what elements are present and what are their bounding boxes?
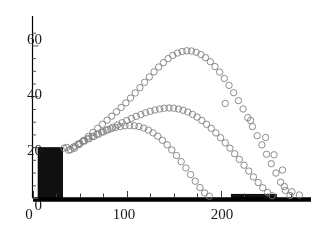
chart-plot-area <box>0 0 316 234</box>
y-tick-label-20: 20 <box>12 142 42 159</box>
y-tick-label-40: 40 <box>12 86 42 103</box>
y-tick-label-60: 60 <box>12 31 42 48</box>
x-tick-label-0: 0 <box>25 206 33 223</box>
x-tick-label-100: 100 <box>113 206 136 223</box>
x-tick-label-200: 200 <box>211 206 234 223</box>
chart-container: 60 40 20 0 0 100 200 <box>0 0 316 234</box>
